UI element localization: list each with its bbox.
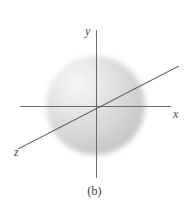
figure-caption: (b) [0,184,189,199]
y-axis-line [96,30,97,178]
y-axis-label: y [85,25,90,37]
x-axis-label: x [173,108,178,120]
figure-stage: y x z (b) [0,0,189,209]
z-axis-label: z [14,146,19,158]
figure-panel: y x z (b) [0,0,189,209]
